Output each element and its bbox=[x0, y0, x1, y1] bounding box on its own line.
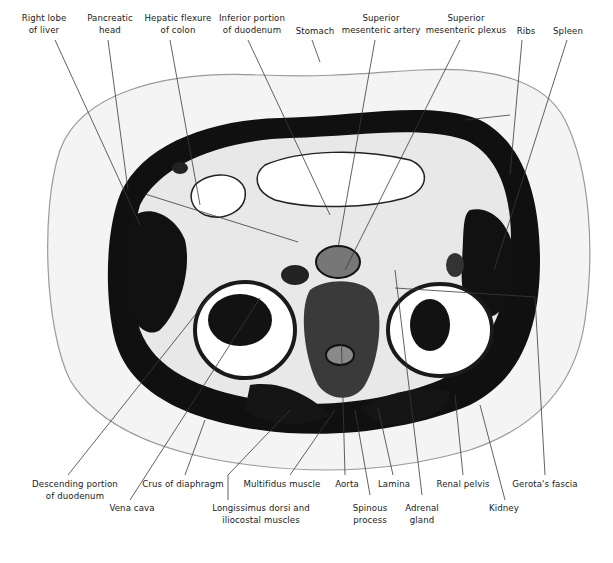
label-spleen: Spleen bbox=[553, 25, 583, 37]
label-superior-mesenteric-plexus: Superiormesenteric plexus bbox=[426, 12, 507, 36]
label-lamina: Lamina bbox=[378, 478, 410, 490]
label-vena-cava: Vena cava bbox=[109, 502, 154, 514]
label-stomach: Stomach bbox=[296, 25, 335, 37]
label-ribs: Ribs bbox=[517, 25, 536, 37]
label-aorta: Aorta bbox=[335, 478, 359, 490]
label-pancreatic-head: Pancreatichead bbox=[87, 12, 133, 36]
label-adrenal-gland: Adrenalgland bbox=[405, 502, 439, 526]
label-hepatic-flexure-of-colon: Hepatic flexureof colon bbox=[145, 12, 212, 36]
label-gerotas-fascia: Gerota's fascia bbox=[512, 478, 577, 490]
anatomical-figure: Right lobeof liver Pancreatichead Hepati… bbox=[0, 0, 613, 563]
label-renal-pelvis: Renal pelvis bbox=[437, 478, 490, 490]
label-descending-portion-of-duodenum: Descending portionof duodenum bbox=[32, 478, 118, 502]
label-kidney: Kidney bbox=[489, 502, 519, 514]
label-superior-mesenteric-artery: Superiormesenteric artery bbox=[342, 12, 421, 36]
label-multifidus-muscle: Multifidus muscle bbox=[244, 478, 321, 490]
label-longissimus-dorsi-and-iliocostal-muscles: Longissimus dorsi andiliocostal muscles bbox=[212, 502, 310, 526]
label-inferior-portion-of-duodenum: Inferior portionof duodenum bbox=[219, 12, 285, 36]
label-right-lobe-of-liver: Right lobeof liver bbox=[22, 12, 67, 36]
label-crus-of-diaphragm: Crus of diaphragm bbox=[142, 478, 224, 490]
label-spinous-process: Spinousprocess bbox=[353, 502, 388, 526]
